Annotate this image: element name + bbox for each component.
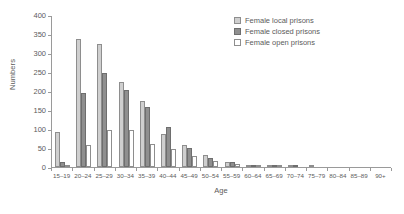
x-tick-label: 45–49 bbox=[179, 172, 200, 184]
x-tick-label: 40–44 bbox=[157, 172, 178, 184]
x-axis-ticks: 15–1920–2425–2930–3435–3940–4445–4950–54… bbox=[51, 172, 391, 184]
x-tick-label: 50–54 bbox=[200, 172, 221, 184]
x-tick-label: 65–69 bbox=[264, 172, 285, 184]
y-axis-title: Numbers bbox=[8, 30, 17, 120]
bar-group bbox=[116, 16, 137, 167]
bar-open bbox=[192, 156, 197, 167]
bar-open bbox=[213, 161, 218, 167]
y-axis-ticks: 050100150200250300350400 bbox=[20, 16, 46, 168]
chart-legend: Female local prisonsFemale closed prison… bbox=[234, 15, 320, 48]
y-tick-label: 150 bbox=[20, 107, 46, 115]
legend-item: Female closed prisons bbox=[234, 26, 320, 37]
legend-label: Female closed prisons bbox=[245, 27, 320, 36]
legend-item: Female local prisons bbox=[234, 15, 320, 26]
y-tick-label: 100 bbox=[20, 126, 46, 134]
bars-layer bbox=[52, 16, 391, 167]
x-tick-mark bbox=[94, 168, 95, 171]
x-tick-label: 90+ bbox=[370, 172, 391, 184]
x-tick-label: 30–34 bbox=[115, 172, 136, 184]
x-tick-label: 35–39 bbox=[136, 172, 157, 184]
bar-open bbox=[86, 145, 91, 167]
x-tick-label: 70–74 bbox=[285, 172, 306, 184]
x-tick-mark bbox=[115, 168, 116, 171]
x-tick-mark bbox=[136, 168, 137, 171]
x-tick-label: 75–79 bbox=[306, 172, 327, 184]
bar-local bbox=[309, 165, 314, 167]
bar-group bbox=[52, 16, 73, 167]
legend-label: Female open prisons bbox=[245, 38, 315, 47]
y-tick-label: 350 bbox=[20, 31, 46, 39]
y-tick-mark bbox=[48, 149, 51, 150]
y-tick-mark bbox=[48, 16, 51, 17]
bar-group bbox=[158, 16, 179, 167]
x-tick-mark bbox=[157, 168, 158, 171]
bar-open bbox=[65, 165, 70, 167]
bar-group bbox=[349, 16, 370, 167]
bar-open bbox=[277, 165, 282, 167]
x-tick-mark bbox=[285, 168, 286, 171]
plot-area bbox=[51, 16, 391, 168]
bar-group bbox=[73, 16, 94, 167]
legend-swatch-closed bbox=[234, 28, 241, 35]
bar-open bbox=[150, 144, 155, 167]
x-tick-mark bbox=[306, 168, 307, 171]
bar-closed bbox=[293, 165, 298, 167]
y-tick-label: 0 bbox=[20, 164, 46, 172]
y-tick-mark bbox=[48, 111, 51, 112]
y-tick-mark bbox=[48, 92, 51, 93]
x-tick-label: 60–64 bbox=[242, 172, 263, 184]
x-tick-label: 20–24 bbox=[72, 172, 93, 184]
x-tick-mark bbox=[72, 168, 73, 171]
x-tick-mark bbox=[200, 168, 201, 171]
x-tick-mark bbox=[179, 168, 180, 171]
y-tick-label: 200 bbox=[20, 88, 46, 96]
bar-open bbox=[171, 149, 176, 167]
y-tick-mark bbox=[48, 54, 51, 55]
legend-label: Female local prisons bbox=[245, 16, 314, 25]
y-tick-label: 250 bbox=[20, 69, 46, 77]
bar-chart: Numbers 050100150200250300350400 15–1920… bbox=[0, 0, 404, 214]
y-tick-label: 50 bbox=[20, 145, 46, 153]
x-axis-title: Age bbox=[51, 186, 391, 195]
legend-swatch-local bbox=[234, 17, 241, 24]
bar-open bbox=[256, 165, 261, 167]
x-tick-mark bbox=[242, 168, 243, 171]
y-tick-label: 300 bbox=[20, 50, 46, 58]
bar-group bbox=[370, 16, 391, 167]
legend-swatch-open bbox=[234, 39, 241, 46]
x-tick-label: 80–84 bbox=[327, 172, 348, 184]
x-tick-mark bbox=[51, 168, 52, 171]
bar-open bbox=[107, 130, 112, 167]
x-tick-label: 25–29 bbox=[94, 172, 115, 184]
legend-item: Female open prisons bbox=[234, 37, 320, 48]
bar-open bbox=[129, 130, 134, 167]
bar-group bbox=[200, 16, 221, 167]
bar-group bbox=[94, 16, 115, 167]
x-tick-mark bbox=[391, 168, 392, 171]
x-tick-mark bbox=[264, 168, 265, 171]
x-tick-mark bbox=[349, 168, 350, 171]
y-tick-mark bbox=[48, 168, 51, 169]
bar-open bbox=[235, 164, 240, 167]
x-tick-label: 15–19 bbox=[51, 172, 72, 184]
x-tick-label: 85–89 bbox=[349, 172, 370, 184]
bar-group bbox=[137, 16, 158, 167]
y-tick-mark bbox=[48, 73, 51, 74]
bar-group bbox=[179, 16, 200, 167]
x-tick-mark bbox=[221, 168, 222, 171]
bar-group bbox=[327, 16, 348, 167]
y-tick-label: 400 bbox=[20, 12, 46, 20]
x-tick-mark bbox=[327, 168, 328, 171]
y-tick-mark bbox=[48, 130, 51, 131]
x-tick-mark bbox=[370, 168, 371, 171]
x-tick-label: 55–59 bbox=[221, 172, 242, 184]
x-axis-tick-marks bbox=[51, 168, 391, 171]
y-tick-mark bbox=[48, 35, 51, 36]
